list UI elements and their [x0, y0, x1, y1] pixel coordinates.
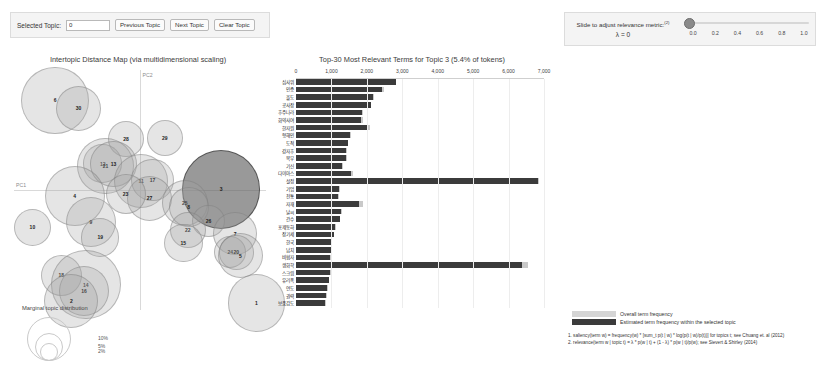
bar-row[interactable]: 보품감도: [296, 300, 544, 306]
topic-bubble-label-30: 30: [76, 105, 82, 111]
bar-rows-container: 심사위인증올도공사장후주나라화약사여한자원형해인도적강자후복부기신다이아스설정기…: [296, 79, 544, 308]
bar-gridline-5: [473, 79, 474, 308]
topic-bubble-label-3: 3: [220, 186, 223, 192]
bar-row[interactable]: 심사위: [296, 79, 544, 85]
bar-row[interactable]: 기업: [296, 186, 544, 192]
relevance-slider-bar: Slide to adjust relevance metric:(2) λ =…: [564, 12, 816, 46]
bar-row[interactable]: 권력: [296, 293, 544, 299]
bar-topic-5: [296, 117, 361, 123]
bar-gridline-3: [402, 79, 403, 308]
bar-chart-title: Top-30 Most Relevant Terms for Topic 3 (…: [276, 55, 548, 64]
bar-row[interactable]: 연도: [296, 285, 544, 291]
bar-row[interactable]: 공사장: [296, 102, 544, 108]
bar-row[interactable]: 설정: [296, 178, 544, 184]
bar-topic-20: [296, 232, 334, 238]
bar-term-label-12: 다이아스: [278, 170, 294, 176]
bar-chart-legend: Overall term frequency Estimated term fr…: [572, 311, 820, 327]
bar-term-label-10: 복부: [286, 155, 294, 161]
bar-xtick-4: 4,000: [431, 68, 444, 74]
topic-controls-bar: Selected Topic: Previous Topic Next Topi…: [10, 12, 270, 38]
bar-row[interactable]: 인증: [296, 87, 544, 93]
slider-tick-1: 0.2: [704, 30, 726, 36]
topic-bubble-label-28: 28: [123, 136, 129, 142]
bar-term-label-0: 심사위: [282, 79, 294, 85]
marginal-legend-tick-2: 10%: [98, 335, 108, 341]
bar-term-label-6: 한자원: [282, 125, 294, 131]
bar-term-label-9: 강자후: [282, 148, 294, 154]
relevant-terms-panel: Slide to adjust relevance metric:(2) λ =…: [276, 0, 548, 372]
bar-term-label-7: 형해인: [282, 132, 294, 138]
slider-tick-5: 1.0: [793, 30, 815, 36]
bar-term-label-28: 권력: [286, 293, 294, 299]
bar-term-label-11: 기신: [286, 163, 294, 169]
bar-row[interactable]: 비협자: [296, 255, 544, 261]
bar-gridline-2: [367, 79, 368, 308]
bar-term-label-3: 공사장: [282, 102, 294, 108]
previous-topic-button[interactable]: Previous Topic: [115, 19, 165, 30]
bar-row[interactable]: 유리폭: [296, 277, 544, 283]
topic-bubble-label-2: 2: [70, 298, 73, 304]
bar-row[interactable]: 다이아스: [296, 171, 544, 177]
legend-swatch-topic-icon: [572, 319, 616, 325]
bar-row[interactable]: 전통: [296, 194, 544, 200]
slider-handle[interactable]: [684, 18, 695, 29]
topic-bubble-label-26: 26: [206, 218, 212, 224]
bar-row[interactable]: 한국: [296, 239, 544, 245]
bar-row[interactable]: 스크립: [296, 270, 544, 276]
intertopic-scatter-plot[interactable]: PC2 PC1 63028291221131117272343258910262…: [14, 70, 266, 310]
selected-topic-input[interactable]: [66, 20, 110, 31]
bar-topic-26: [296, 277, 329, 283]
topic-bubble-label-4: 4: [73, 193, 76, 199]
bar-row[interactable]: 간수: [296, 216, 544, 222]
term-frequency-bar-chart[interactable]: 01,0002,0003,0004,0005,0006,0007,000 심사위…: [276, 68, 548, 308]
bar-row[interactable]: 올도: [296, 94, 544, 100]
bar-row[interactable]: 화약사여: [296, 117, 544, 123]
legend-item-topic: Estimated term frequency within the sele…: [572, 319, 820, 325]
bar-term-label-16: 자재: [286, 201, 294, 207]
bar-term-label-1: 인증: [286, 86, 294, 92]
bar-row[interactable]: 복부: [296, 155, 544, 161]
bar-topic-1: [296, 87, 382, 93]
relevance-metric-text: Slide to adjust relevance metric:: [577, 21, 665, 28]
bar-topic-27: [296, 285, 327, 291]
bar-xtick-1: 1,000: [325, 68, 338, 74]
bar-chart-x-axis: 01,0002,0003,0004,0005,0006,0007,000: [296, 68, 544, 78]
bar-row[interactable]: 형해인: [296, 132, 544, 138]
bar-xtick-7: 7,000: [538, 68, 551, 74]
bar-row[interactable]: 자재: [296, 201, 544, 207]
relevance-metric-footnote-ref: (2): [664, 20, 669, 25]
bar-row[interactable]: 날씨: [296, 209, 544, 215]
bar-xtick-5: 5,000: [467, 68, 480, 74]
bar-gridline-4: [438, 79, 439, 308]
bar-row[interactable]: 생화학: [296, 262, 544, 268]
next-topic-button[interactable]: Next Topic: [170, 19, 209, 30]
bar-row[interactable]: 강자후: [296, 148, 544, 154]
slider-track[interactable]: [686, 22, 809, 24]
topic-bubble-label-27: 27: [147, 195, 153, 201]
bar-term-label-19: 포제동하: [278, 224, 294, 230]
bar-topic-12: [296, 171, 351, 177]
clear-topic-button[interactable]: Clear Topic: [214, 19, 255, 30]
bar-term-label-14: 기업: [286, 186, 294, 192]
bar-term-label-29: 보품감도: [278, 300, 294, 306]
marginal-legend-title: Marginal topic distribution: [22, 305, 142, 311]
bar-row[interactable]: 장기세: [296, 232, 544, 238]
bar-row[interactable]: 납치: [296, 247, 544, 253]
bar-topic-2: [296, 94, 373, 100]
bar-topic-21: [296, 239, 331, 245]
bar-row[interactable]: 포제동하: [296, 224, 544, 230]
bar-row[interactable]: 기신: [296, 163, 544, 169]
bar-xtick-6: 6,000: [502, 68, 515, 74]
legend-label-topic: Estimated term frequency within the sele…: [620, 319, 736, 325]
bar-term-label-17: 날씨: [286, 209, 294, 215]
bar-row[interactable]: 후주나라: [296, 110, 544, 116]
relevance-metric-label: Slide to adjust relevance metric:(2): [569, 20, 677, 28]
bar-row[interactable]: 한자원: [296, 125, 544, 131]
lambda-slider[interactable]: 0.00.20.40.60.81.0: [682, 13, 815, 45]
bar-row[interactable]: 도적: [296, 140, 544, 146]
bar-term-label-15: 전통: [286, 193, 294, 199]
bar-topic-24: [296, 262, 522, 268]
bar-xtick-2: 2,000: [361, 68, 374, 74]
bar-topic-7: [296, 132, 350, 138]
bar-topic-11: [296, 163, 342, 169]
